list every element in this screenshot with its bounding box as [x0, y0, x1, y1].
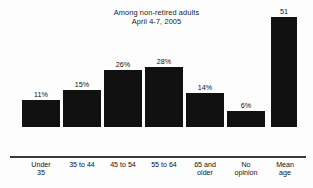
x-label-no-opinion: No opinion: [227, 161, 265, 178]
bar-group-35-to-44: 15%: [63, 90, 101, 127]
x-label-65-and-older-line1: 65 and: [186, 161, 224, 169]
bar-group-mean-age: 51: [271, 17, 297, 127]
bar-value-45-to-54: 26%: [116, 60, 130, 69]
bar-value-no-opinion: 6%: [241, 101, 251, 110]
x-axis-line: [10, 156, 306, 158]
bar-value-35-to-44: 15%: [75, 80, 89, 89]
bar-group-55-to-64: 28%: [145, 67, 183, 127]
x-label-mean-age: Mean age: [266, 161, 304, 178]
x-label-45-to-54: 45 to 54: [104, 161, 142, 169]
bar-value-65-and-older: 14%: [198, 83, 212, 92]
x-axis-category-labels: Under 35 35 to 44 45 to 54 55 to 64 65 a…: [0, 161, 313, 188]
x-label-45-to-54-line1: 45 to 54: [104, 161, 142, 169]
x-label-55-to-64-line1: 55 to 64: [145, 161, 183, 169]
x-label-under-35-line1: Under: [22, 161, 60, 169]
x-label-no-opinion-line2: opinion: [227, 169, 265, 177]
bar-rect-35-to-44: [63, 90, 101, 127]
x-label-55-to-64: 55 to 64: [145, 161, 183, 169]
bar-rect-under-35: [22, 100, 60, 127]
x-label-65-and-older: 65 and older: [186, 161, 224, 178]
x-label-under-35-line2: 35: [22, 169, 60, 177]
bar-group-under-35: 11%: [22, 100, 60, 127]
bar-value-55-to-64: 28%: [157, 57, 171, 66]
x-label-mean-age-line2: age: [266, 169, 304, 177]
bar-chart: Among non-retired adults April 4-7, 2005…: [0, 0, 313, 188]
bar-rect-65-and-older: [186, 93, 224, 127]
bar-value-under-35: 11%: [34, 90, 48, 99]
bar-group-65-and-older: 14%: [186, 93, 224, 127]
bar-rect-55-to-64: [145, 67, 183, 127]
bar-rect-no-opinion: [227, 111, 265, 127]
x-label-35-to-44: 35 to 44: [63, 161, 101, 169]
x-label-under-35: Under 35: [22, 161, 60, 178]
bar-group-no-opinion: 6%: [227, 111, 265, 127]
x-label-65-and-older-line2: older: [186, 169, 224, 177]
plot-area: 11% 15% 26% 28% 14% 6% 51: [0, 0, 313, 158]
bar-value-mean-age: 51: [280, 7, 288, 16]
bar-rect-45-to-54: [104, 70, 142, 127]
bar-group-45-to-54: 26%: [104, 70, 142, 127]
x-label-mean-age-line1: Mean: [266, 161, 304, 169]
x-label-35-to-44-line1: 35 to 44: [63, 161, 101, 169]
x-label-no-opinion-line1: No: [227, 161, 265, 169]
bar-rect-mean-age: [271, 17, 297, 127]
